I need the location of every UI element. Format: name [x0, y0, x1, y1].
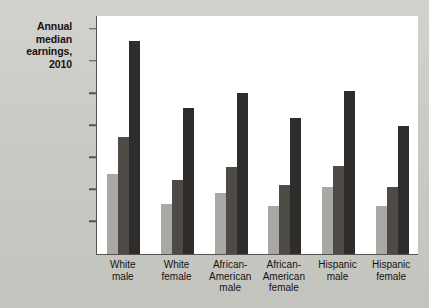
chart-title-line-1: Annual — [0, 20, 72, 33]
bar-group — [258, 16, 312, 254]
bar — [290, 118, 301, 254]
bar — [398, 126, 409, 254]
bar — [161, 204, 172, 254]
bar — [344, 91, 355, 254]
y-axis-tick-mark — [89, 124, 96, 126]
bar — [215, 193, 226, 254]
bar — [172, 180, 183, 254]
bar — [237, 93, 248, 254]
bar-group — [151, 16, 205, 254]
bar-group — [97, 16, 151, 254]
bar — [268, 206, 279, 254]
bar — [333, 166, 344, 254]
y-axis-tick-mark — [89, 189, 96, 191]
chart-figure: Annual median earnings, 2010 No HS degre… — [0, 0, 429, 308]
x-axis-category-label: African- American female — [257, 259, 311, 294]
x-axis-category-label: Hispanic male — [311, 259, 365, 282]
bar — [387, 187, 398, 254]
y-axis-tick-mark — [89, 60, 96, 62]
bar — [118, 137, 129, 254]
chart-title-line-4: 2010 — [0, 58, 72, 71]
y-axis-tick-mark — [89, 156, 96, 158]
bar — [129, 41, 140, 254]
bar-group — [312, 16, 366, 254]
x-axis-category-label: White female — [150, 259, 204, 282]
bar — [376, 206, 387, 254]
y-axis-tick-mark — [89, 28, 96, 30]
bar — [279, 185, 290, 254]
chart-title-line-2: median — [0, 33, 72, 46]
bar — [107, 174, 118, 254]
bar — [226, 167, 237, 254]
chart-title: Annual median earnings, 2010 — [0, 20, 72, 70]
plot-area — [97, 16, 418, 254]
bar — [322, 187, 333, 254]
bar — [183, 108, 194, 254]
y-axis-tick-mark — [89, 221, 96, 223]
bar-group — [204, 16, 258, 254]
x-axis-category-label: White male — [96, 259, 150, 282]
bar-group — [365, 16, 419, 254]
y-axis-tick-mark — [89, 92, 96, 94]
plot-frame — [96, 16, 418, 255]
chart-title-line-3: earnings, — [0, 45, 72, 58]
x-axis-category-label: African- American male — [203, 259, 257, 294]
x-axis-category-label: Hispanic female — [364, 259, 418, 282]
